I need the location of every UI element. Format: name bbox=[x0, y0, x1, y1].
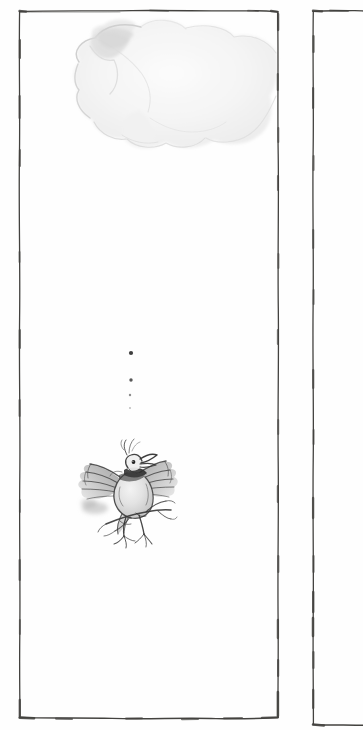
page-number bbox=[0, 0, 1, 1]
illustration-description: Hand-drawn ink and wash illustration: a … bbox=[0, 0, 1, 1]
page-caption bbox=[0, 0, 1, 1]
caption-layer: Hand-drawn ink and wash illustration: a … bbox=[0, 0, 363, 730]
illustration-page: Hand-drawn ink and wash illustration: a … bbox=[0, 0, 363, 730]
